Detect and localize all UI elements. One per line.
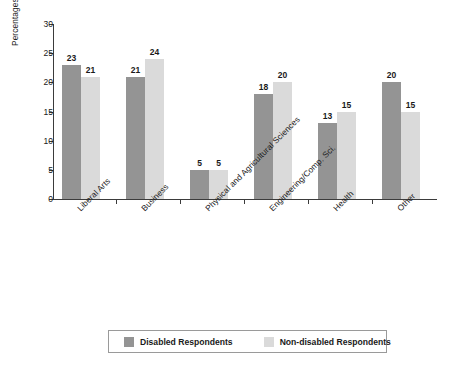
chart-legend: Disabled RespondentsNon-disabled Respond… [108, 330, 387, 353]
y-tick-label: 30 [19, 19, 53, 29]
legend-swatch-icon [124, 337, 134, 347]
y-tick-label: 15 [19, 107, 53, 117]
x-tick-mark [116, 200, 117, 204]
bar-value-label: 20 [382, 70, 401, 81]
y-tick-label: 0 [19, 194, 53, 204]
bar-value-label: 23 [62, 53, 81, 64]
bar-value-label: 21 [126, 65, 145, 76]
x-tick-mark [308, 200, 309, 204]
y-tick-label: 10 [19, 136, 53, 146]
legend-swatch-icon [264, 337, 274, 347]
bar: 21 [81, 77, 100, 200]
bar-group: 1820 [254, 24, 292, 199]
bar: 23 [62, 65, 81, 199]
y-tick-label: 20 [19, 77, 53, 87]
legend-label: Disabled Respondents [140, 337, 233, 347]
bar-value-label: 13 [318, 111, 337, 122]
bar-group: 2321 [62, 24, 100, 199]
bar: 5 [190, 170, 209, 199]
x-tick-mark [372, 200, 373, 204]
bar-value-label: 21 [81, 65, 100, 76]
bar-value-label: 18 [254, 82, 273, 93]
bar: 21 [126, 77, 145, 200]
bar-group: 55 [190, 24, 228, 199]
bar: 15 [401, 112, 420, 200]
bar-chart: Percentages by Field of Study 0510152025… [0, 0, 457, 365]
bar-value-label: 5 [209, 158, 228, 169]
bar-value-label: 20 [273, 70, 292, 81]
legend-item[interactable]: Disabled Respondents [124, 331, 233, 352]
bar: 24 [145, 59, 164, 199]
bar-value-label: 5 [190, 158, 209, 169]
bar-group: 2015 [382, 24, 420, 199]
bar: 20 [382, 82, 401, 199]
bar-value-label: 15 [337, 100, 356, 111]
y-tick-label: 25 [19, 48, 53, 58]
x-tick-mark [244, 200, 245, 204]
x-axis-line [53, 199, 437, 200]
legend-label: Non-disabled Respondents [280, 337, 391, 347]
bar-value-label: 24 [145, 47, 164, 58]
legend-item[interactable]: Non-disabled Respondents [264, 331, 391, 352]
bar-value-label: 15 [401, 100, 420, 111]
bar-group: 2124 [126, 24, 164, 199]
y-tick-label: 5 [19, 165, 53, 175]
bar: 15 [337, 112, 356, 200]
x-tick-mark [180, 200, 181, 204]
bar-group: 1315 [318, 24, 356, 199]
